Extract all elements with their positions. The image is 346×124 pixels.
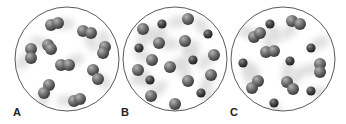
large-atom-icon	[164, 61, 176, 73]
atom	[153, 37, 165, 49]
large-atom-icon	[287, 83, 299, 95]
atom	[182, 13, 194, 25]
diatomic-molecule	[87, 64, 104, 85]
particle-diagram	[0, 0, 346, 124]
small-atom-icon	[265, 19, 274, 28]
large-atom-icon	[268, 45, 280, 57]
large-atom-icon	[132, 64, 144, 76]
large-atom-icon	[169, 98, 181, 110]
atom	[205, 69, 217, 81]
large-atom-icon	[97, 47, 109, 59]
diatomic-molecule	[260, 45, 280, 58]
container-a	[12, 7, 119, 111]
atom	[145, 75, 154, 84]
small-atom-icon	[238, 58, 247, 67]
large-atom-icon	[137, 23, 149, 35]
large-atom-icon	[205, 69, 217, 81]
atom	[188, 55, 197, 64]
atom	[157, 19, 166, 28]
large-atom-icon	[146, 54, 158, 66]
large-atom-icon	[179, 35, 191, 47]
diatomic-molecule	[314, 58, 326, 78]
panel-label-b: B	[121, 106, 129, 118]
small-atom-icon	[269, 98, 278, 107]
panel-label-c: C	[230, 106, 238, 118]
large-atom-icon	[254, 27, 266, 39]
container-b	[123, 7, 227, 124]
large-atom-icon	[74, 93, 86, 105]
large-atom-icon	[182, 75, 194, 87]
panel-label-a: A	[13, 106, 21, 118]
large-atom-icon	[294, 18, 306, 30]
atom	[182, 75, 194, 87]
small-atom-icon	[285, 56, 294, 65]
large-atom-icon	[85, 27, 97, 39]
atom	[134, 43, 143, 52]
large-atom-icon	[314, 66, 326, 78]
atom	[208, 49, 220, 61]
large-atom-icon	[25, 52, 37, 64]
atom	[164, 61, 176, 73]
small-atom-icon	[157, 19, 166, 28]
large-atom-icon	[153, 37, 165, 49]
large-atom-icon	[63, 59, 75, 71]
container-c	[231, 7, 335, 124]
small-atom-icon	[306, 86, 315, 95]
atom	[146, 54, 158, 66]
atom	[238, 58, 247, 67]
large-atom-icon	[52, 17, 64, 29]
atom	[203, 29, 212, 38]
atom	[285, 56, 294, 65]
large-atom-icon	[246, 82, 258, 94]
small-atom-icon	[196, 88, 205, 97]
diatomic-molecule	[77, 25, 97, 39]
small-atom-icon	[203, 29, 212, 38]
large-atom-icon	[38, 87, 50, 99]
large-atom-icon	[208, 49, 220, 61]
diatomic-molecule	[55, 59, 75, 71]
small-atom-icon	[306, 43, 315, 52]
small-atom-icon	[188, 55, 197, 64]
atom	[179, 35, 191, 47]
atom	[132, 64, 144, 76]
small-atom-icon	[145, 75, 154, 84]
atom	[269, 98, 278, 107]
atom	[169, 98, 181, 110]
large-atom-icon	[145, 90, 157, 102]
atom	[306, 86, 315, 95]
large-atom-icon	[45, 43, 57, 55]
atom	[306, 43, 315, 52]
large-atom-icon	[92, 73, 104, 85]
diatomic-molecule	[38, 79, 55, 99]
diatomic-molecule	[42, 39, 57, 55]
atom	[196, 88, 205, 97]
small-atom-icon	[134, 43, 143, 52]
atom	[137, 23, 149, 35]
atom	[145, 90, 157, 102]
large-atom-icon	[182, 13, 194, 25]
atom	[265, 19, 274, 28]
